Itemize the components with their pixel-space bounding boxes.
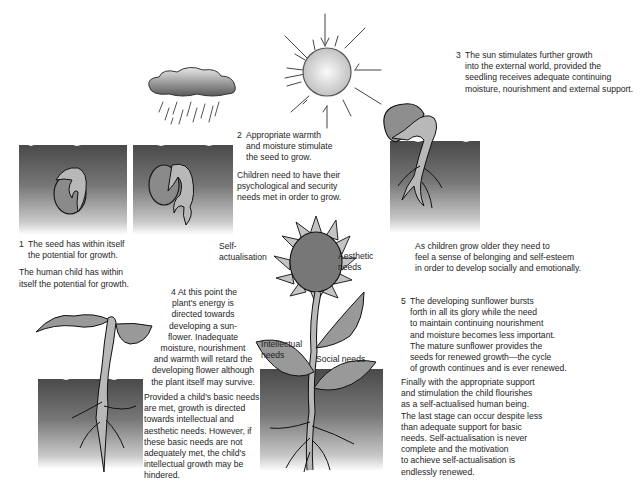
label-social-needs: Social needs bbox=[316, 354, 365, 365]
stage-3-child-text: As children grow older they need to feel… bbox=[415, 241, 642, 275]
stage-3-text: 3The sun stimulates further growth into … bbox=[456, 50, 642, 95]
label-self-actualisation: Self- actualisation bbox=[219, 241, 267, 263]
germinating-seed-illustration bbox=[142, 155, 212, 230]
young-plant-illustration bbox=[34, 302, 154, 480]
stage-1-text: 1The seed has within itself the potentia… bbox=[19, 239, 189, 290]
stage-2-number: 2 bbox=[237, 130, 246, 141]
stage-4-text: 4At this point the plant's energy is dir… bbox=[148, 287, 258, 388]
stage-4-number: 4 bbox=[169, 287, 178, 298]
label-aesthetic-needs: Aesthetic needs bbox=[338, 251, 373, 273]
stage-5-number: 5 bbox=[401, 296, 410, 307]
label-intellectual-needs: Intellectual needs bbox=[261, 339, 302, 361]
stage-3-number: 3 bbox=[456, 50, 465, 61]
seed-illustration bbox=[48, 160, 98, 220]
stage-2-text: 2Appropriate warmth and moisture stimula… bbox=[237, 130, 397, 203]
stage-5-text: 5The developing sunflower bursts forth i… bbox=[401, 296, 642, 374]
rain-cloud-icon bbox=[143, 64, 243, 129]
stage-4-child-text: Provided a child's basic needs are met, … bbox=[144, 392, 266, 482]
stage-5-child-text: Finally with the appropriate support and… bbox=[401, 377, 642, 478]
stage-1-number: 1 bbox=[19, 239, 28, 250]
